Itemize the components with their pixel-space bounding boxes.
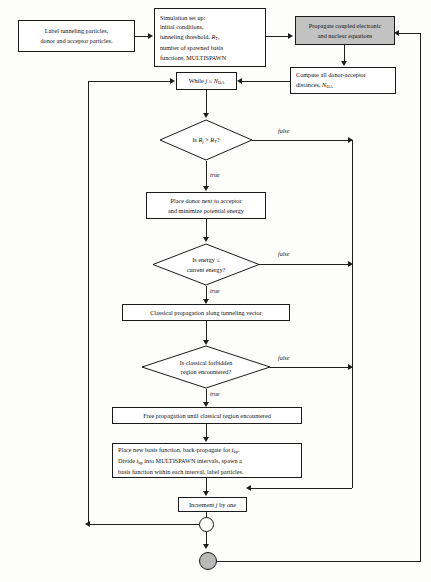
compute-line1: Compute all donor-acceptor <box>296 70 391 80</box>
newbasis-line2: Divide tbp into MULTISPAWN intervals, sp… <box>118 456 297 467</box>
edge-donor-to-decision2 <box>206 219 207 238</box>
arrowhead-increment <box>203 491 209 496</box>
node-decision-forbidden[interactable]: Is classical forbidden region encountere… <box>141 345 271 389</box>
node-place-donor[interactable]: Place donor next to acceptor and minimiz… <box>146 192 266 219</box>
label-true1: true <box>210 172 220 178</box>
edge-leftloop-riser <box>88 81 89 524</box>
arrowhead-leftloop <box>85 521 90 527</box>
edge-classical-to-decision3 <box>206 321 207 341</box>
edge-false1 <box>252 140 352 141</box>
edge-right-riser <box>420 33 421 561</box>
edge-compute-to-while <box>240 81 290 82</box>
edge-right-to-propagate <box>398 33 420 34</box>
node-while-loop[interactable]: While j ≤ NDA <box>176 72 237 90</box>
node-propagate-coupled[interactable]: Propagate coupled electronic and nuclear… <box>295 16 395 45</box>
setup-line4: number of spawned basis <box>160 43 261 53</box>
edge-while-to-decision1 <box>206 90 207 114</box>
decision-energy-text: Is energy ≤ current energy? <box>152 243 260 286</box>
compute-line2: distances, NDA <box>296 80 391 91</box>
edge-false2 <box>259 264 352 265</box>
classical-propagation-line1: Classical propagation along tunneling ve… <box>150 308 262 318</box>
terminal-filled-circle[interactable] <box>199 552 217 570</box>
edge-true1 <box>206 161 207 187</box>
node-classical-propagation[interactable]: Classical propagation along tunneling ve… <box>122 304 290 321</box>
node-compute-distances[interactable]: Compute all donor-acceptor distances, ND… <box>290 67 396 94</box>
arrowhead-newbasis <box>203 437 209 442</box>
edge-false-to-increment <box>249 488 352 489</box>
edge-leftloop-bottom <box>88 524 206 525</box>
label-false1: false <box>278 128 289 134</box>
label-false3: false <box>278 355 289 361</box>
label-true2: true <box>210 288 220 294</box>
junction-open-circle[interactable] <box>199 517 214 532</box>
arrowhead-setup <box>148 33 153 39</box>
setup-line2: initial conditions, <box>160 22 261 32</box>
arrowhead-decision1 <box>203 113 209 118</box>
edge-setup-to-propagate <box>266 36 289 37</box>
free-propagation-line1: Free propagation until classical region … <box>143 411 271 421</box>
newbasis-line1: Place new basis function, back-propagate… <box>118 445 297 456</box>
node-simulation-setup[interactable]: Simulation set up: initial conditions, t… <box>154 8 266 67</box>
arrowhead-propagate <box>288 33 293 39</box>
node-place-new-basis[interactable]: Place new basis function, back-propagate… <box>112 443 302 478</box>
edge-leftloop-to-while <box>88 81 172 82</box>
edge-propagate-to-compute <box>344 45 345 62</box>
setup-line3: tunneling threshold, RT, <box>160 32 261 43</box>
edge-newbasis-to-increment <box>206 478 207 492</box>
arrowhead-terminal <box>203 544 209 549</box>
while-text: While j ≤ NDA <box>189 76 225 87</box>
arrowhead-decision2 <box>203 237 209 242</box>
propagate-line2: and nuclear equations <box>318 31 372 41</box>
propagate-line1: Propagate coupled electronic <box>309 21 381 31</box>
edge-true3 <box>206 389 207 403</box>
arrowhead-true1 <box>203 186 209 191</box>
arrowhead-while-right <box>237 78 242 84</box>
edge-true2 <box>206 286 207 300</box>
edge-free-to-newbasis <box>206 424 207 438</box>
arrowhead-increment-right <box>246 485 251 491</box>
place-donor-line1: Place donor next to acceptor <box>171 196 242 206</box>
newbasis-line3: basis function within each interval, lab… <box>118 467 297 477</box>
edge-terminal-to-right <box>212 561 421 562</box>
node-label-particles-line2: donor and acceptor particles. <box>40 36 112 46</box>
setup-line5: functions, MULTISPAWN <box>160 53 261 63</box>
decision-rj-text: Is Rj > RT? <box>159 119 253 161</box>
label-false2: false <box>278 251 289 257</box>
flowchart-canvas: Label tunneling particles, donor and acc… <box>0 0 431 582</box>
arrowhead-compute <box>341 61 347 66</box>
node-free-propagation[interactable]: Free propagation until classical region … <box>112 407 302 424</box>
node-decision-energy[interactable]: Is energy ≤ current energy? <box>152 243 260 286</box>
node-increment-j[interactable]: Increment j by one <box>178 497 247 512</box>
edge-label-to-setup <box>135 36 149 37</box>
place-donor-line2: and minimize potential energy <box>168 206 244 216</box>
decision-forbidden-text: Is classical forbidden region encountere… <box>141 345 271 389</box>
node-label-particles[interactable]: Label tunneling particles, donor and acc… <box>18 20 135 52</box>
increment-text: Increment j by one <box>189 500 236 510</box>
edge-false3 <box>270 367 352 368</box>
node-decision-rj[interactable]: Is Rj > RT? <box>159 119 253 161</box>
label-true3: true <box>210 391 220 397</box>
setup-line1: Simulation set up: <box>160 13 261 23</box>
node-label-particles-line1: Label tunneling particles, <box>45 26 109 36</box>
edge-false-riser <box>352 140 353 488</box>
